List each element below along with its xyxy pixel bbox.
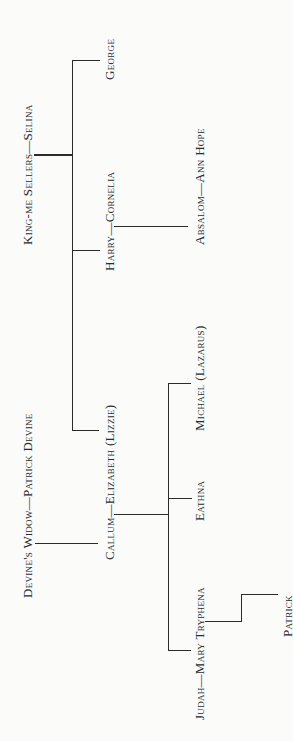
connector-devine-to-callum <box>35 543 98 545</box>
node-harry-cornelia: Harry—Cornelia <box>103 172 116 271</box>
sibling-bar-callum <box>168 383 170 651</box>
connector-judah-to-patrick-c <box>241 594 278 596</box>
family-tree-diagram: King-me Sellers—Selina Devine's Widow—Pa… <box>0 0 293 741</box>
node-george: George <box>103 39 116 80</box>
branch-harry <box>72 250 100 252</box>
node-king-me-sellers-selina: King-me Sellers—Selina <box>21 104 34 245</box>
branch-judah <box>168 650 191 652</box>
connector-callum-to-children <box>114 514 168 516</box>
node-eathna: Eathna <box>193 481 206 521</box>
node-devines-widow-patrick-devine: Devine's Widow—Patrick Devine <box>21 413 34 598</box>
node-callum-elizabeth: Callum—Elizabeth (Lizzie) <box>103 405 116 560</box>
branch-michael <box>168 383 191 385</box>
node-michael: Michael (Lazarus) <box>193 325 206 431</box>
sibling-bar-sellers <box>72 60 74 431</box>
node-absalom-ann-hope: Absalom—Ann Hope <box>193 128 206 245</box>
node-judah-mary-tryphena: Judah—Mary Tryphena <box>193 587 206 720</box>
connector-judah-to-patrick-a <box>205 621 242 623</box>
connector-harry-to-absalom <box>114 226 188 228</box>
node-patrick: Patrick <box>281 595 293 637</box>
branch-lizzie <box>72 430 99 432</box>
branch-eathna <box>168 498 192 500</box>
connector-judah-to-patrick-b <box>241 594 243 623</box>
branch-george <box>72 60 100 62</box>
connector-king-me-to-children <box>34 154 73 156</box>
